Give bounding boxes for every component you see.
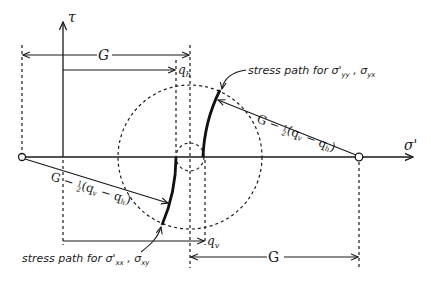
qv-label: qv — [207, 234, 220, 250]
left-pole-point — [19, 154, 26, 161]
lower-radius-label: G − 12(qv − qh) — [49, 169, 133, 209]
upper-stress-path-annotation: stress path for σ'yy , σyx — [248, 64, 376, 79]
lower-stress-path-annotation: stress path for σ'xx , σxy — [22, 252, 150, 267]
qh-label: qh — [178, 63, 191, 79]
sigma-axis-label: σ' — [404, 137, 417, 153]
upper-radius-label: G − 12(qv − qh) — [254, 112, 337, 157]
mohr-circle-diagram: τ σ' G qh qv G G − 12(qv − qh) G − 12(qv… — [0, 0, 431, 285]
upper-annotation-leader — [222, 70, 246, 89]
stress-path-xx — [162, 157, 176, 225]
lower-annotation-leader — [141, 227, 161, 252]
tau-axis-label: τ — [68, 9, 76, 25]
bottom-G-label: G — [268, 249, 279, 265]
stress-path-yy — [203, 90, 220, 157]
top-G-label: G — [98, 47, 109, 63]
right-pole-point — [355, 153, 363, 161]
